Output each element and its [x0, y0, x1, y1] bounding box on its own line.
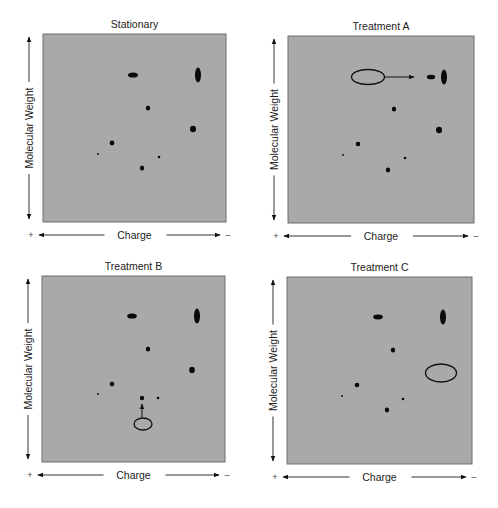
gel-panel-treatment-a: Treatment AMolecular Weight+Charge– [268, 20, 479, 242]
gel-panel-treatment-c: Treatment CMolecular Weight+Charge– [267, 261, 477, 483]
protein-spot [440, 310, 446, 325]
protein-spot [97, 393, 99, 395]
protein-spot [373, 315, 383, 320]
protein-spot [385, 408, 389, 413]
gel-panel-stationary: StationaryMolecular Weight+Charge– [23, 18, 231, 241]
y-axis-label: Molecular Weight [22, 328, 34, 409]
protein-spot [190, 126, 196, 133]
protein-spot [127, 313, 137, 318]
protein-spot [341, 395, 343, 397]
protein-spot [386, 168, 390, 173]
protein-spot [110, 141, 115, 146]
protein-spot [140, 396, 144, 401]
protein-spot [146, 346, 150, 351]
positive-sign: + [27, 470, 32, 480]
protein-spot [356, 142, 361, 147]
gel-area [287, 277, 472, 464]
protein-spot [97, 153, 99, 155]
protein-spot [436, 127, 442, 134]
protein-spot [342, 154, 344, 156]
gel-area [43, 34, 226, 222]
protein-spot [404, 157, 407, 160]
protein-spot [189, 367, 195, 373]
gel-area [288, 36, 474, 223]
negative-sign: – [473, 231, 478, 241]
gel-panel-treatment-b: Treatment BMolecular Weight+Charge– [22, 260, 230, 481]
y-axis-label: Molecular Weight [267, 330, 279, 411]
x-axis-label: Charge [364, 230, 399, 242]
protein-spot [392, 106, 396, 111]
panel-title: Treatment C [351, 261, 409, 273]
protein-spot [195, 68, 201, 83]
gel-area [42, 276, 225, 462]
x-axis-label: Charge [117, 229, 152, 241]
protein-spot [158, 156, 161, 159]
protein-spot [128, 72, 138, 77]
protein-spot [402, 398, 405, 401]
y-axis-label: Molecular Weight [23, 87, 35, 168]
y-axis-label: Molecular Weight [268, 89, 280, 170]
panel-title: Treatment A [353, 20, 410, 32]
protein-spot [194, 309, 200, 324]
negative-sign: – [471, 472, 476, 482]
panel-title: Stationary [111, 18, 159, 30]
protein-spot [110, 382, 115, 387]
positive-sign: + [28, 230, 33, 240]
positive-sign: + [272, 472, 277, 482]
protein-spot [355, 383, 360, 388]
negative-sign: – [224, 470, 229, 480]
panel-title: Treatment B [105, 260, 162, 272]
protein-spot [140, 166, 144, 171]
figure-canvas: StationaryMolecular Weight+Charge–Treatm… [0, 0, 498, 508]
x-axis-label: Charge [116, 469, 151, 481]
protein-spot [441, 70, 447, 85]
two-d-gel-figure: StationaryMolecular Weight+Charge–Treatm… [0, 0, 498, 508]
negative-sign: – [225, 230, 230, 240]
x-axis-label: Charge [362, 471, 397, 483]
protein-spot [146, 105, 150, 110]
positive-sign: + [273, 231, 278, 241]
protein-spot [157, 397, 160, 400]
protein-spot [391, 347, 395, 352]
protein-spot [427, 75, 435, 80]
